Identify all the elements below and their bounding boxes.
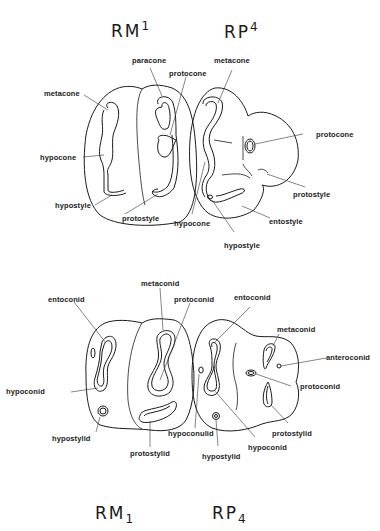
label-hypoconid-p4: hypoconid (248, 444, 287, 452)
label-protostylid-m1: protostylid (130, 450, 170, 458)
label-protostylid-p4: protostylid (272, 430, 312, 438)
title-upper-m1-sup: 1 (141, 19, 151, 33)
upper-p4-tooth (190, 88, 299, 218)
title-upper-p4-sup: 4 (250, 20, 260, 34)
label-metacone-p4: metacone (214, 57, 250, 65)
dental-diagram-drawing (0, 0, 380, 531)
label-paracone: paracone (132, 57, 166, 65)
title-lower-m1: RM1 (95, 505, 135, 525)
label-entoconid-p4: entoconid (234, 294, 271, 302)
upper-leader-lines (83, 68, 305, 232)
title-lower-m1-sub: 1 (125, 512, 135, 526)
label-hypostyle-m1: hypostyle (55, 202, 91, 210)
label-hypoconulid-p4: hypoconulid (168, 430, 214, 438)
title-lower-p4-sub: 4 (238, 512, 248, 526)
title-upper-m1-base: RM (111, 21, 141, 41)
title-upper-p4-base: RP (224, 22, 250, 42)
lower-m1-tooth (86, 319, 194, 431)
label-protostyle-m1: protostyle (122, 215, 159, 223)
title-upper-m1: RM1 (111, 20, 151, 40)
lower-p4-tooth (192, 320, 299, 431)
title-lower-m1-base: RM (95, 503, 125, 523)
label-hypocone-p4: hypocone (174, 220, 210, 228)
label-hypostylid-p4: hypostylid (202, 453, 241, 461)
label-entostyle-p4: entostyle (269, 218, 303, 226)
label-protoconid-p4: protoconid (300, 383, 340, 391)
label-protocone-m1: protocone (169, 70, 207, 78)
title-lower-p4: RP4 (212, 505, 248, 525)
label-entoconid-m1: entoconid (48, 296, 85, 304)
title-upper-p4: RP4 (224, 21, 260, 41)
lower-leader-lines (71, 288, 326, 447)
label-protostyle-p4: protostyle (293, 191, 330, 199)
title-lower-p4-base: RP (212, 503, 238, 523)
label-hypostyle-p4: hypostyle (224, 242, 260, 250)
label-hypoconid-m1: hypoconid (6, 388, 45, 396)
label-hypocone-m1: hypocone (40, 154, 76, 162)
label-protocone-p4: protocone (316, 131, 354, 139)
label-protoconid-m1: protoconid (174, 296, 214, 304)
label-metacone-m1: metacone (44, 90, 80, 98)
label-hypostylid-m1: hypostylid (52, 435, 91, 443)
label-anteroconid-p4: anteroconid (326, 354, 370, 362)
label-metaconid-p4: metaconid (277, 326, 315, 334)
label-metaconid-m1: metaconid (141, 280, 179, 288)
